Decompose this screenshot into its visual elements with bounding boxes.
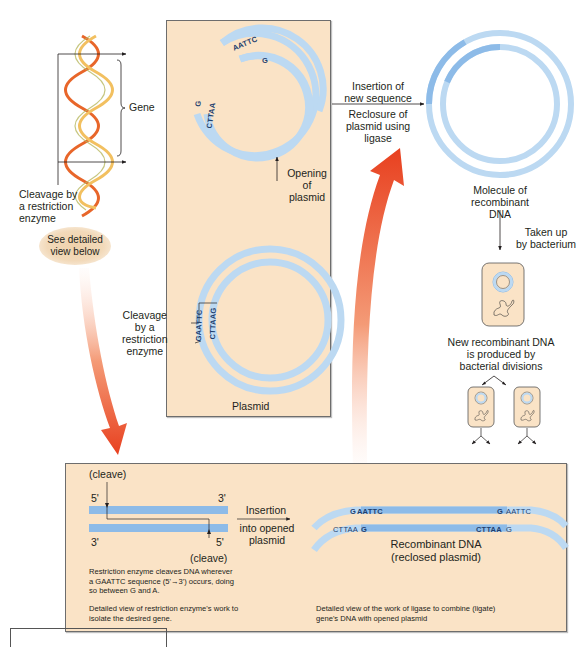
red-arrow-down [79, 268, 127, 455]
enzyme-caption: Detailed view of restriction enzyme's wo… [89, 604, 269, 623]
open-outer-end: G [262, 56, 268, 65]
cleave-top-label: (cleave) [89, 468, 126, 480]
see-detailed-view-bubble[interactable]: See detailed view below [39, 227, 111, 265]
open-inner-end: G [193, 100, 203, 108]
top-5-prime: 5' [91, 492, 99, 504]
recombinant-molecule [429, 33, 571, 175]
ligase-caption: Detailed view of the work of ligase to c… [316, 604, 556, 623]
enzyme-note: Restriction enzyme cleaves DNA wherever … [89, 567, 259, 596]
bacterium-daughter-left [468, 387, 494, 444]
cleave-bottom-label: (cleave) [190, 552, 227, 564]
bubble-label: See detailed view below [47, 234, 103, 258]
top-3-prime: 3' [218, 492, 226, 504]
insertion-top-label: Insertion of new sequence [333, 80, 423, 104]
plasmid-graphics [167, 21, 330, 416]
seq-bottom-left: CTTAA [333, 525, 358, 534]
seq-top-left-g: G [350, 507, 356, 516]
bacterium-daughter-right [514, 387, 540, 444]
insertion-label: Insertion [236, 504, 296, 516]
seq-top-right: AATTC [506, 507, 531, 516]
closed-outer-seq: GAATTC [194, 309, 204, 341]
opening-label: Opening of plasmid [284, 167, 330, 203]
closed-inner-seq: CTTAAG [208, 307, 218, 339]
division-label: New recombinant DNA is produced by bacte… [440, 336, 562, 372]
detail-panel: (cleave) 5' 3' 3' 5' (cleave) Insertion … [65, 463, 567, 632]
big-red-arrow-up [352, 148, 404, 468]
plasmid-cleavage-label: Cleavage by a restriction enzyme [122, 309, 168, 357]
molecule-label: Molecule of recombinant DNA [450, 184, 550, 220]
division-arrows [482, 376, 506, 385]
plasmid-panel: AATTC G G CTTAA Opening of plasmid GAATT… [166, 20, 331, 417]
gene-brace-icon [117, 60, 125, 156]
seq-bottom-right-g: G [506, 525, 512, 534]
seq-bottom-right: CTTAA [476, 525, 502, 534]
cleavage-label: Cleavage by a restriction enzyme [19, 188, 77, 224]
insertion-bottom-label: Reclosure of plasmid using ligase [333, 108, 423, 144]
taken-up-label: Taken up by bacterium [508, 226, 584, 250]
bacterium-main [482, 263, 524, 326]
gene-label: Gene [129, 101, 155, 113]
cropped-caption-box [10, 628, 167, 647]
seq-bottom-left-g: G [361, 525, 367, 534]
seq-top-left: AATTC [357, 507, 383, 516]
plasmid-label: Plasmid [232, 400, 269, 412]
seq-top-right-g: G [497, 507, 503, 516]
insertion-sub-label: into opened plasmid [232, 522, 302, 546]
recombinant-title: Recombinant DNA (reclosed plasmid) [366, 538, 506, 564]
bottom-5-prime: 5' [216, 536, 224, 548]
bottom-3-prime: 3' [91, 536, 99, 548]
